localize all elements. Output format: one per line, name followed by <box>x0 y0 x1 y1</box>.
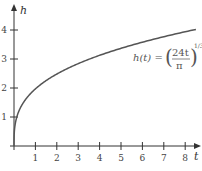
formula-denominator: π <box>176 60 183 71</box>
x-tick-label: 7 <box>161 153 167 163</box>
x-axis-label: t <box>194 150 199 163</box>
x-tick-label: 6 <box>140 153 146 163</box>
x-tick-label: 5 <box>118 153 124 163</box>
axes <box>10 4 201 150</box>
formula-lhs: h(t) = <box>133 52 163 63</box>
y-axis-label: h <box>20 4 27 17</box>
formula-annotation: h(t) = ( 24t π ) 1/3 <box>133 42 202 71</box>
y-axis-arrow-icon <box>11 4 17 11</box>
y-tick-label: 2 <box>1 83 7 93</box>
y-tick-label: 1 <box>1 112 7 122</box>
y-tick-label: 4 <box>1 25 7 35</box>
x-tick-label: 1 <box>33 153 39 163</box>
formula-numerator: 24t <box>172 47 189 58</box>
x-tick-label: 2 <box>54 153 60 163</box>
x-tick-label: 3 <box>75 153 81 163</box>
x-tick-label: 8 <box>182 153 188 163</box>
y-tick-label: 3 <box>1 54 7 64</box>
chart: 123456781234 h t h(t) = ( 24t π ) 1/3 <box>0 0 202 171</box>
formula-exponent: 1/3 <box>194 42 202 49</box>
x-tick-label: 4 <box>97 153 103 163</box>
x-axis-arrow-icon <box>194 143 201 149</box>
